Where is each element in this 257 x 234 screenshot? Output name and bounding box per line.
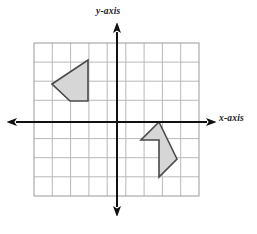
x-axis-label: x-axis — [219, 113, 244, 123]
y-axis-label: y-axis — [96, 6, 120, 16]
coordinate-plane-figure: y-axis x-axis — [0, 0, 257, 234]
